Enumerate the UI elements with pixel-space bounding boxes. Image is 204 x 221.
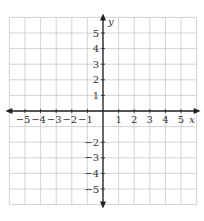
x-axis-label: x	[189, 114, 195, 125]
x-tick-label: 3	[147, 114, 153, 125]
y-tick-label: 1	[93, 90, 99, 101]
x-tick-label: 5	[178, 114, 184, 125]
y-axis-up-arrow-icon	[100, 13, 106, 20]
axes	[5, 13, 200, 208]
x-axis-left-arrow-icon	[5, 108, 12, 114]
x-tick-label: −1	[78, 114, 93, 125]
y-axis-down-arrow-icon	[100, 202, 106, 209]
y-tick-label: −5	[84, 184, 99, 195]
y-tick-label: 5	[93, 28, 99, 39]
x-tick-label: 2	[131, 114, 137, 125]
y-tick-label: 4	[93, 43, 99, 54]
tick-labels: −5−4−3−2−112345−5−4−3−212345xy	[16, 16, 196, 194]
x-tick-label: 1	[115, 114, 121, 125]
x-tick-label: −3	[47, 114, 62, 125]
x-tick-label: −2	[62, 114, 77, 125]
y-tick-label: 3	[93, 59, 99, 70]
x-tick-label: 4	[162, 114, 168, 125]
y-tick-label: −2	[84, 137, 99, 148]
y-tick-label: −3	[84, 152, 99, 163]
x-tick-label: −5	[16, 114, 31, 125]
y-tick-label: 2	[93, 74, 99, 85]
x-tick-label: −4	[31, 114, 46, 125]
coordinate-plane: −5−4−3−2−112345−5−4−3−212345xy	[0, 0, 204, 221]
y-tick-label: −4	[84, 168, 99, 179]
y-axis-label: y	[107, 16, 114, 27]
